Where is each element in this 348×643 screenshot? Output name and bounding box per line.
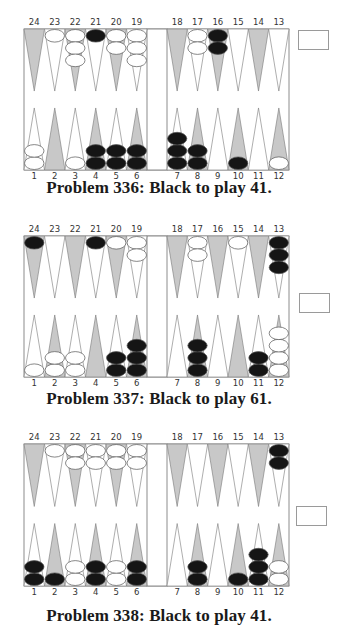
point-label: 15 [233, 17, 244, 27]
point-label: 13 [273, 17, 284, 27]
white-checker [45, 352, 65, 365]
problem-336: 241232223214205196187178169151014111312 … [0, 0, 348, 205]
black-checker [269, 445, 288, 458]
backgammon-board: 241232223214205196187178169151014111312 [0, 205, 348, 420]
black-checker [168, 145, 187, 158]
black-checker [269, 237, 288, 250]
point-label: 19 [131, 17, 142, 27]
white-checker [107, 30, 127, 43]
white-checker [25, 157, 45, 170]
point-label: 19 [131, 432, 142, 442]
white-checker [66, 445, 86, 458]
point-label: 16 [212, 17, 223, 27]
point-label: 11 [253, 378, 264, 388]
point-label: 12 [273, 378, 284, 388]
black-checker [86, 145, 106, 158]
white-checker [66, 561, 86, 574]
backgammon-board: 241232223214205196187178169151014111312 [0, 0, 348, 205]
white-checker [107, 457, 127, 470]
bar [147, 29, 167, 170]
bar [147, 444, 167, 586]
black-checker [269, 249, 288, 262]
bar [147, 236, 167, 377]
point-label: 18 [172, 17, 183, 27]
point-label: 21 [90, 17, 101, 27]
point-label: 19 [131, 224, 142, 234]
white-checker [188, 237, 207, 250]
point-label: 1 [32, 587, 37, 597]
point-label: 16 [212, 432, 223, 442]
white-checker [107, 561, 127, 574]
white-checker [107, 42, 127, 55]
black-checker [127, 145, 147, 158]
point-label: 5 [114, 587, 119, 597]
point-label: 17 [192, 432, 203, 442]
white-checker [66, 364, 86, 377]
black-checker [188, 364, 207, 377]
black-checker [208, 42, 227, 55]
point-label: 2 [52, 378, 57, 388]
point-label: 5 [114, 378, 119, 388]
black-checker [127, 339, 147, 352]
black-checker [188, 573, 207, 586]
doubling-cube [299, 293, 330, 313]
black-checker [127, 364, 147, 377]
black-checker [86, 30, 106, 43]
black-checker [249, 573, 268, 586]
black-checker [86, 573, 106, 586]
black-checker [249, 364, 268, 377]
white-checker [66, 157, 86, 170]
point-label: 16 [212, 224, 223, 234]
white-checker [45, 30, 65, 43]
point-label: 15 [233, 432, 244, 442]
white-checker [66, 54, 86, 67]
point-label: 22 [70, 432, 81, 442]
problem-caption: Problem 336: Black to play 41. [0, 178, 318, 198]
point-label: 17 [192, 17, 203, 27]
point-label: 7 [174, 587, 179, 597]
black-checker [168, 132, 187, 145]
point-label: 22 [70, 224, 81, 234]
point-label: 20 [111, 432, 122, 442]
black-checker [45, 573, 65, 586]
black-checker [188, 157, 207, 170]
point-label: 14 [253, 224, 264, 234]
point-label: 24 [29, 17, 40, 27]
point-label: 21 [90, 432, 101, 442]
white-checker [188, 42, 207, 55]
black-checker [86, 561, 106, 574]
white-checker [66, 42, 86, 55]
white-checker [127, 30, 147, 43]
black-checker [127, 573, 147, 586]
black-checker [249, 548, 268, 561]
black-checker [208, 30, 227, 43]
point-label: 6 [134, 378, 139, 388]
white-checker [66, 30, 86, 43]
point-label: 9 [215, 378, 220, 388]
doubling-cube [298, 30, 329, 50]
black-checker [188, 561, 207, 574]
point-label: 24 [29, 224, 40, 234]
white-checker [188, 30, 207, 43]
black-checker [188, 352, 207, 365]
white-checker [127, 54, 147, 67]
problem-337: 241232223214205196187178169151014111312 … [0, 205, 348, 420]
white-checker [269, 327, 288, 340]
point-label: 15 [233, 224, 244, 234]
white-checker [66, 457, 86, 470]
point-label: 4 [93, 587, 98, 597]
point-label: 18 [172, 432, 183, 442]
problem-caption: Problem 338: Black to play 41. [0, 606, 318, 626]
point-label: 8 [195, 587, 200, 597]
white-checker [269, 157, 288, 170]
point-label: 14 [253, 17, 264, 27]
white-checker [107, 445, 127, 458]
point-label: 21 [90, 224, 101, 234]
white-checker [107, 573, 127, 586]
white-checker [269, 573, 288, 586]
point-label: 12 [273, 587, 284, 597]
white-checker [45, 364, 65, 377]
point-label: 9 [215, 587, 220, 597]
black-checker [25, 561, 45, 574]
point-label: 23 [49, 17, 60, 27]
